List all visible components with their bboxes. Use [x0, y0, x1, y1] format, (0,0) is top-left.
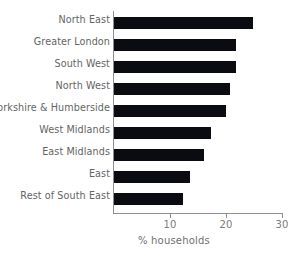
- bar-row: West Midlands: [0, 122, 298, 144]
- bar-row: East: [0, 166, 298, 188]
- bar-row: North East: [0, 12, 298, 34]
- tick-mark: [226, 213, 227, 218]
- tick-label: 30: [267, 219, 297, 230]
- category-label: South West: [54, 58, 110, 69]
- category-label: West Midlands: [39, 124, 110, 135]
- bar: [114, 127, 211, 139]
- bar-row: Yorkshire & Humberside: [0, 100, 298, 122]
- bar-row: Rest of South East: [0, 188, 298, 210]
- bar-row: North West: [0, 78, 298, 100]
- bar-row: South West: [0, 56, 298, 78]
- x-axis-line: [113, 213, 282, 214]
- category-label: Greater London: [34, 36, 110, 47]
- bar: [114, 171, 190, 183]
- bar: [114, 61, 236, 73]
- bar: [114, 149, 204, 161]
- bar-row: Greater London: [0, 34, 298, 56]
- category-label: Rest of South East: [20, 190, 110, 201]
- tick-mark: [282, 213, 283, 218]
- category-label: East: [89, 168, 110, 179]
- bar: [114, 193, 183, 205]
- category-label: North East: [58, 14, 110, 25]
- tick-mark: [170, 213, 171, 218]
- bar: [114, 105, 226, 117]
- tick-label: 20: [211, 219, 241, 230]
- bar: [114, 83, 230, 95]
- tick-label: 10: [155, 219, 185, 230]
- bar: [114, 17, 253, 29]
- category-label: North West: [56, 80, 110, 91]
- category-label: East Midlands: [42, 146, 110, 157]
- bar: [114, 39, 236, 51]
- bar-chart: North EastGreater LondonSouth WestNorth …: [0, 0, 298, 258]
- category-label: Yorkshire & Humberside: [0, 102, 110, 113]
- x-axis-title: % households: [0, 235, 298, 246]
- bar-row: East Midlands: [0, 144, 298, 166]
